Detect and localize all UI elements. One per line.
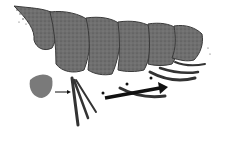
segment-6 (172, 25, 203, 60)
arthropod-drawing (0, 0, 226, 146)
segment-2 (50, 11, 90, 72)
illustration (0, 0, 226, 146)
segment-3 (86, 17, 121, 75)
dot-marker-1 (102, 92, 105, 95)
head-lobe (30, 74, 53, 98)
body-segments (14, 6, 203, 98)
dot-marker-2 (126, 83, 129, 86)
segment-5 (148, 23, 178, 65)
dot-marker-3 (150, 77, 153, 80)
segment-4 (118, 21, 151, 71)
